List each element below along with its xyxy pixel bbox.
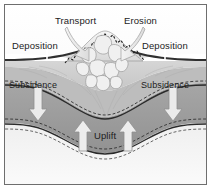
- diagram-canvas: Transport Erosion Deposition Deposition …: [0, 0, 211, 189]
- label-uplift: Uplift: [94, 131, 116, 141]
- label-deposition-right: Deposition: [142, 41, 188, 51]
- label-transport: Transport: [55, 16, 96, 26]
- label-subsidence-right: Subsidence: [141, 81, 189, 90]
- geology-cross-section-svg: [5, 5, 206, 184]
- label-subsidence-left: Subsidence: [9, 81, 57, 90]
- diagram-frame: Transport Erosion Deposition Deposition …: [4, 4, 207, 185]
- label-erosion: Erosion: [124, 16, 157, 26]
- label-deposition-left: Deposition: [12, 41, 58, 51]
